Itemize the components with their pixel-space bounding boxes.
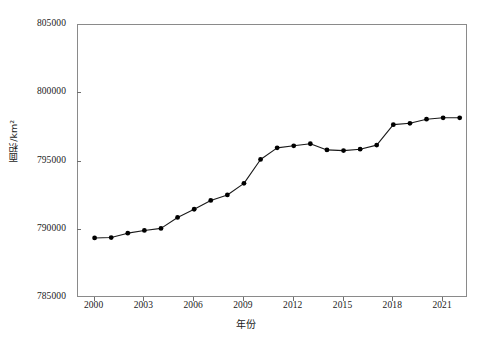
x-tick-label: 2021 [432,301,451,311]
data-point [325,148,330,153]
x-tick-mark [392,297,393,301]
x-tick-mark [293,297,294,301]
x-tick-mark [94,297,95,301]
x-tick-label: 2003 [134,301,153,311]
data-point [175,215,180,220]
data-point [341,148,346,153]
data-point [457,115,462,120]
data-point [391,122,396,127]
data-point [408,121,413,126]
x-axis-title: 年份 [0,320,491,330]
data-point [109,235,114,240]
x-tick-mark [143,297,144,301]
data-point [358,147,363,152]
x-tick-label: 2012 [283,301,302,311]
series-line [95,118,460,238]
y-tick-mark [77,92,81,93]
y-tick-mark [77,229,81,230]
x-axis-tick-labels: 20002003200620092012201520182021 [0,301,491,317]
x-tick-label: 2009 [233,301,252,311]
series-markers [92,115,462,240]
data-point [308,141,313,146]
y-tick-label: 790000 [37,224,66,234]
data-point [242,181,247,186]
data-point [125,231,130,236]
y-tick-label: 805000 [37,19,66,29]
x-tick-label: 2006 [183,301,202,311]
x-tick-mark [442,297,443,301]
data-point [142,228,147,233]
data-point [275,145,280,150]
data-point [225,193,230,198]
data-point [92,236,97,241]
x-tick-label: 2018 [383,301,402,311]
y-tick-mark [77,161,81,162]
data-point [208,198,213,203]
chart-figure: 面积/km² 785000790000795000800000805000 20… [0,0,491,343]
line-series-svg [78,25,468,298]
plot-area [77,24,467,297]
data-point [159,226,164,231]
data-point [374,143,379,148]
data-point [258,157,263,162]
x-tick-label: 2000 [84,301,103,311]
x-tick-mark [193,297,194,301]
y-axis-tick-labels: 785000790000795000800000805000 [0,24,72,297]
x-tick-mark [343,297,344,301]
data-point [424,117,429,122]
y-tick-label: 795000 [37,156,66,166]
data-point [291,143,296,148]
y-tick-label: 800000 [37,88,66,98]
x-tick-mark [243,297,244,301]
data-point [192,207,197,212]
data-point [441,115,446,120]
x-tick-label: 2015 [333,301,352,311]
